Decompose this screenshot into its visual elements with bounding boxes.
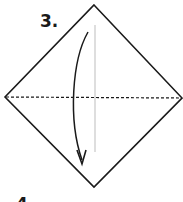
origami-diagram xyxy=(0,0,183,202)
step-number-label: 3. xyxy=(40,13,58,30)
next-step-number-label: 4. xyxy=(16,196,34,202)
paper-diamond xyxy=(5,5,182,187)
